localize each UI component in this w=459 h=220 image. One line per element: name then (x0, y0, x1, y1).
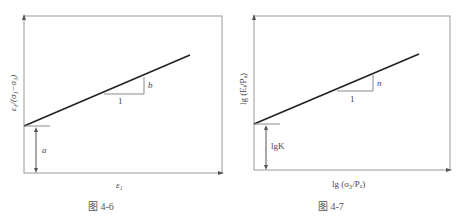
x-axis-label: ε₁ (116, 180, 123, 190)
fit-line (254, 54, 419, 124)
x-axis-arrow-icon (218, 171, 224, 175)
y-axis-label: lg (Eᵢ/Pₐ) (238, 54, 248, 124)
dimension-arrow-down-icon (264, 165, 268, 170)
slope-label: n (377, 78, 382, 88)
y-axis-arrow-icon (22, 14, 26, 20)
y-axis-arrow-icon (252, 14, 256, 20)
slope-label: b (148, 80, 153, 90)
fit-line (24, 55, 190, 126)
dimension-arrow-up-icon (34, 127, 38, 132)
intercept-label: a (42, 145, 47, 155)
x-axis-label: lg (σ₃/Pₐ) (332, 179, 365, 189)
run-label: 1 (118, 96, 123, 106)
figure-caption: 图 4-7 (318, 198, 344, 213)
dimension-arrow-up-icon (264, 125, 268, 130)
figure-caption: 图 4-6 (88, 198, 114, 213)
dimension-arrow-down-icon (34, 168, 38, 173)
figure-4-6-plot (0, 0, 230, 220)
intercept-label: lgK (271, 141, 285, 151)
y-axis-label: ε₁/(σ₁−σ₃) (8, 58, 18, 128)
figure-4-7: n 1 lgK lg (σ₃/Pₐ) lg (Eᵢ/Pₐ) 图 4-7 (230, 0, 459, 220)
x-axis-arrow-icon (446, 168, 452, 172)
figure-4-6: b 1 a ε₁ ε₁/(σ₁−σ₃) 图 4-6 (0, 0, 230, 220)
run-label: 1 (350, 94, 355, 104)
